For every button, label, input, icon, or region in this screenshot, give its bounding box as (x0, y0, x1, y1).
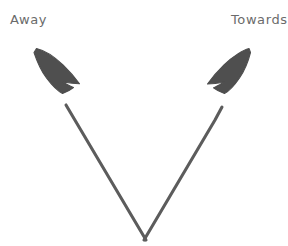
away-arrow-group (34, 49, 146, 241)
towards-arrow-shaft (144, 107, 222, 240)
away-arrowhead (34, 49, 80, 94)
diagram-canvas: Away Towards (0, 0, 288, 246)
towards-arrowhead (208, 49, 251, 94)
arrow-diagram-svg (0, 0, 288, 246)
away-arrow-shaft (66, 105, 146, 240)
towards-arrow-group (144, 49, 251, 241)
